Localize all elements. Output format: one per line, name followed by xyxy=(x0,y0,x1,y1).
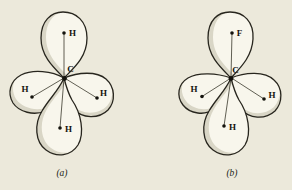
panel-a-caption: (a) xyxy=(56,168,67,179)
nucleus-dot-top xyxy=(62,31,66,35)
nucleus-dot-left xyxy=(30,95,34,99)
atom-label-right: H xyxy=(268,90,275,100)
nucleus-dot-bottom xyxy=(58,126,62,130)
atom-label-top: H xyxy=(69,28,76,38)
carbon-nucleus-dot xyxy=(62,76,67,81)
nucleus-dot-right xyxy=(262,97,266,101)
atom-label-top: F xyxy=(237,28,243,38)
atom-label-left: H xyxy=(21,84,28,94)
nucleus-dot-top xyxy=(230,31,234,35)
panel-b-caption: (b) xyxy=(226,168,237,179)
carbon-nucleus-dot xyxy=(229,76,234,81)
hybrid-orbital-figure: H H H H C (a) xyxy=(0,0,292,190)
atom-label-bottom: H xyxy=(229,122,236,132)
atom-label-left: H xyxy=(190,84,197,94)
central-atom-label: C xyxy=(232,65,239,75)
molecule-b-diagram: F H H H C (b) xyxy=(146,0,292,190)
atom-label-bottom: H xyxy=(65,124,72,134)
nucleus-dot-bottom xyxy=(222,124,226,128)
nucleus-dot-right xyxy=(95,96,99,100)
nucleus-dot-left xyxy=(200,95,204,99)
molecule-a-diagram: H H H H C (a) xyxy=(0,0,146,190)
atom-label-right: H xyxy=(100,88,107,98)
central-atom-label: C xyxy=(67,64,74,74)
